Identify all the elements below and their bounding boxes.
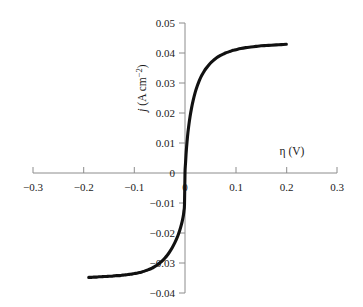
y-tick-label-4: 0.01 [156,137,175,149]
y-axis-title: j (A cm−2) [134,64,149,114]
x-tick-label-1: −0.2 [74,181,94,193]
y-tick-label-7: −0.02 [150,227,175,239]
y-axis-title-exponent: −2 [134,68,144,77]
y-tick-label-1: 0.04 [156,47,176,59]
y-tick-label-0: 0.05 [156,17,176,29]
y-tick-label-2: 0.03 [156,77,176,89]
svg-text:j (A cm−2): j (A cm−2) [134,64,149,114]
y-tick-label-9: −0.04 [150,287,176,299]
y-tick-label-5: 0 [170,167,176,179]
y-axis-title-units-close: ) [136,64,149,68]
x-tick-label-6: 0.3 [330,181,344,193]
x-tick-label-4: 0.1 [229,181,243,193]
y-tick-label-3: 0.02 [156,107,175,119]
chart-svg: −0.3 −0.2 −0.1 0 0.1 0.2 0.3 η (V) 0.05 … [0,0,363,307]
polarization-curve [89,44,287,277]
y-axis: 0.05 0.04 0.03 0.02 0.01 0 −0.01 −0.02 −… [134,17,185,299]
x-tick-label-0: −0.3 [23,181,43,193]
x-tick-label-2: −0.1 [124,181,144,193]
x-axis-title: η (V) [280,145,305,158]
y-axis-title-units: (A cm [136,77,149,105]
polarization-chart: −0.3 −0.2 −0.1 0 0.1 0.2 0.3 η (V) 0.05 … [0,0,363,307]
x-tick-label-5: 0.2 [280,181,294,193]
y-tick-label-6: −0.01 [150,197,175,209]
